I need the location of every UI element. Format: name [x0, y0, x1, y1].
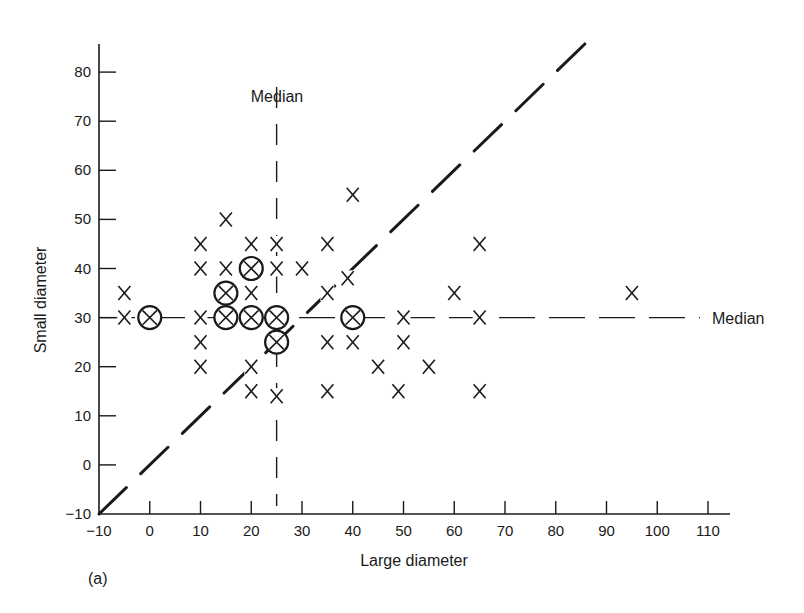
x-tick-label: 80: [547, 522, 564, 539]
x-marker: [219, 261, 233, 277]
x-tick-label: 50: [395, 522, 412, 539]
data-points: [117, 187, 639, 404]
x-marker: [270, 236, 284, 252]
x-marker: [625, 285, 639, 301]
x-marker: [397, 334, 411, 350]
x-marker: [320, 236, 334, 252]
x-tick-label: 110: [696, 522, 720, 539]
x-tick-label: 70: [497, 522, 514, 539]
x-tick-label: 20: [243, 522, 260, 539]
x-marker: [320, 334, 334, 350]
circled-x-marker: [138, 306, 161, 329]
circled-x-marker: [341, 306, 364, 329]
x-marker: [244, 285, 258, 301]
x-marker: [117, 285, 131, 301]
x-marker: [244, 359, 258, 375]
reference-lines: [99, 33, 700, 514]
x-marker: [194, 334, 208, 350]
circled-x-marker: [240, 257, 263, 280]
circled-x-marker: [265, 331, 288, 354]
x-marker: [320, 383, 334, 399]
x-marker: [117, 310, 131, 326]
x-marker: [422, 359, 436, 375]
y-tick-label: 30: [74, 309, 91, 326]
y-tick-label: 70: [74, 112, 91, 129]
y-tick-label: 80: [74, 63, 91, 80]
x-tick-label: 90: [598, 522, 615, 539]
x-marker: [194, 261, 208, 277]
y-axis-title: Small diameter: [32, 246, 49, 353]
x-marker: [270, 261, 284, 277]
scatter-chart: −100102030405060708090100110−10010203040…: [0, 0, 804, 613]
x-axis-title: Large diameter: [360, 552, 468, 569]
y-tick-label: 20: [74, 358, 91, 375]
x-marker: [346, 334, 360, 350]
vertical-median-label: Median: [251, 88, 303, 105]
x-tick-label: 100: [645, 522, 670, 539]
x-marker: [194, 359, 208, 375]
x-marker: [473, 383, 487, 399]
y-tick-label: −10: [66, 505, 91, 522]
x-marker: [341, 270, 355, 286]
x-marker: [244, 383, 258, 399]
x-marker: [473, 310, 487, 326]
circled-x-marker: [214, 282, 237, 305]
x-tick-label: 10: [192, 522, 209, 539]
x-marker: [194, 310, 208, 326]
circled-x-marker: [265, 306, 288, 329]
circled-x-marker: [240, 306, 263, 329]
x-marker: [447, 285, 461, 301]
x-tick-label: 60: [446, 522, 463, 539]
x-marker: [371, 359, 385, 375]
x-marker: [346, 187, 360, 203]
x-marker: [320, 285, 334, 301]
y-tick-label: 60: [74, 161, 91, 178]
x-marker: [194, 236, 208, 252]
y-tick-label: 40: [74, 260, 91, 277]
x-marker: [397, 310, 411, 326]
horizontal-median-label: Median: [712, 310, 764, 327]
x-marker: [219, 211, 233, 227]
x-marker: [473, 236, 487, 252]
x-tick-label: 40: [344, 522, 361, 539]
x-marker: [295, 261, 309, 277]
x-marker: [270, 388, 284, 404]
x-tick-label: −10: [86, 522, 111, 539]
panel-label: (a): [88, 570, 108, 587]
x-tick-label: 30: [294, 522, 311, 539]
y-tick-label: 10: [74, 407, 91, 424]
x-marker: [391, 383, 405, 399]
x-tick-label: 0: [146, 522, 154, 539]
circled-x-marker: [214, 306, 237, 329]
y-tick-label: 0: [83, 456, 91, 473]
y-tick-label: 50: [74, 210, 91, 227]
x-marker: [244, 236, 258, 252]
